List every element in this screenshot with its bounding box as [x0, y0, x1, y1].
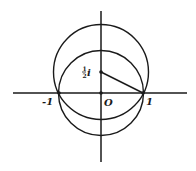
label-origin: O [104, 97, 113, 108]
point-origin [99, 91, 103, 95]
complex-plane-diagram: -1 O 1 1 2 i [0, 0, 196, 171]
point-one [141, 91, 145, 95]
point-minus-one [57, 91, 61, 95]
point-half-i [99, 70, 103, 74]
label-one: 1 [146, 96, 153, 107]
label-minus-one: -1 [42, 96, 53, 107]
radius-segment [101, 72, 143, 93]
label-half-i: i [87, 67, 91, 78]
